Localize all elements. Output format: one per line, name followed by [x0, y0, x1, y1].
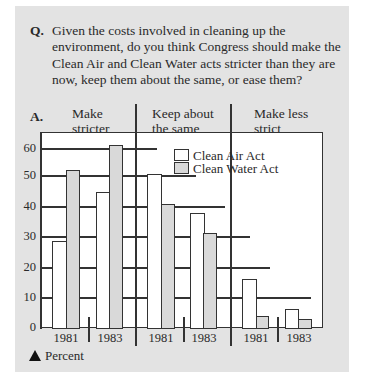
y-axis	[40, 132, 42, 329]
bar-water-stricter-1983	[109, 145, 123, 329]
legend-water: Clean Water Act	[174, 161, 278, 177]
gridline-60	[40, 148, 157, 150]
answer-label: A.	[30, 109, 43, 125]
legend-swatch-water-icon	[174, 162, 189, 174]
section-divider	[135, 104, 137, 346]
percent-label: Percent	[29, 348, 84, 364]
x-label: 1981	[46, 331, 86, 346]
x-label: 1983	[279, 331, 319, 346]
legend-swatch-air-icon	[174, 149, 189, 161]
question-text: Given the costs involved in cleaning up …	[52, 23, 344, 88]
bar-water-less-1983	[298, 319, 312, 329]
bar-water-same-1983	[203, 233, 217, 329]
bar-water-less-1981	[256, 316, 269, 329]
x-label: 1983	[184, 331, 224, 346]
bar-water-stricter-1981	[66, 170, 80, 329]
x-label: 1981	[141, 331, 181, 346]
section-divider	[230, 104, 232, 346]
gridline-10	[40, 297, 311, 299]
y-tick-label: 60	[18, 141, 36, 156]
bar-air-less-1981	[242, 279, 257, 329]
y-tick-label: 20	[18, 260, 36, 275]
bar-air-less-1983	[285, 309, 299, 329]
y-tick-label: 30	[18, 229, 36, 244]
x-label: 1981	[236, 331, 276, 346]
question-label: Q.	[30, 23, 44, 39]
y-tick-label: 50	[18, 168, 36, 183]
bar-air-stricter-1981	[52, 241, 67, 329]
x-label: 1983	[90, 331, 130, 346]
bar-water-same-1981	[161, 204, 175, 329]
bar-air-same-1981	[147, 174, 162, 329]
y-tick-label: 10	[18, 290, 36, 305]
y-tick-label: 0	[18, 320, 36, 335]
y-tick-label: 40	[18, 199, 36, 214]
triangle-icon	[29, 350, 41, 361]
